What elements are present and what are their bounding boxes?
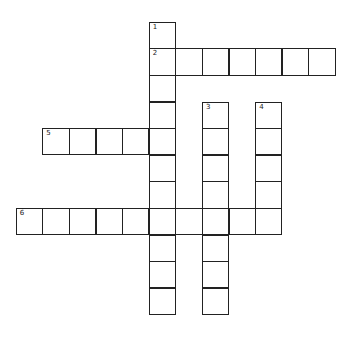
crossword-cell[interactable] [149, 155, 176, 182]
crossword-cell[interactable] [255, 155, 282, 182]
crossword-cell[interactable] [149, 261, 176, 288]
crossword-cell[interactable] [202, 288, 229, 315]
crossword-cell[interactable]: 3 [202, 102, 229, 129]
crossword-cell[interactable] [149, 208, 176, 235]
clue-number: 2 [153, 50, 157, 57]
crossword-cell[interactable] [255, 181, 282, 208]
crossword-cell[interactable] [175, 208, 202, 235]
crossword-cell[interactable]: 4 [255, 102, 282, 129]
crossword-grid: 123456 [0, 0, 354, 341]
crossword-cell[interactable] [69, 208, 96, 235]
crossword-cell[interactable] [255, 128, 282, 155]
clue-number: 6 [20, 210, 24, 217]
crossword-cell[interactable] [255, 48, 282, 75]
crossword-cell[interactable] [149, 235, 176, 262]
crossword-cell[interactable] [96, 208, 123, 235]
crossword-cell[interactable] [42, 208, 69, 235]
crossword-cell[interactable]: 2 [149, 48, 176, 75]
crossword-cell[interactable] [202, 48, 229, 75]
clue-number: 3 [206, 104, 210, 111]
crossword-cell[interactable] [122, 208, 149, 235]
crossword-cell[interactable] [69, 128, 96, 155]
crossword-cell[interactable]: 6 [16, 208, 43, 235]
crossword-cell[interactable] [149, 75, 176, 102]
crossword-cell[interactable] [255, 208, 282, 235]
crossword-cell[interactable] [229, 208, 256, 235]
clue-number: 1 [153, 24, 157, 31]
crossword-cell[interactable]: 5 [42, 128, 69, 155]
crossword-cell[interactable] [96, 128, 123, 155]
crossword-cell[interactable] [202, 261, 229, 288]
crossword-cell[interactable] [149, 181, 176, 208]
crossword-cell[interactable] [229, 48, 256, 75]
crossword-cell[interactable] [308, 48, 335, 75]
clue-number: 4 [259, 104, 263, 111]
crossword-cell[interactable] [202, 181, 229, 208]
crossword-cell[interactable] [149, 128, 176, 155]
crossword-cell[interactable]: 1 [149, 22, 176, 49]
crossword-cell[interactable] [202, 128, 229, 155]
crossword-cell[interactable] [149, 288, 176, 315]
crossword-cell[interactable] [175, 48, 202, 75]
crossword-cell[interactable] [202, 235, 229, 262]
crossword-cell[interactable] [202, 155, 229, 182]
crossword-cell[interactable] [202, 208, 229, 235]
crossword-cell[interactable] [282, 48, 309, 75]
crossword-cell[interactable] [149, 102, 176, 129]
crossword-cell[interactable] [122, 128, 149, 155]
clue-number: 5 [46, 130, 50, 137]
